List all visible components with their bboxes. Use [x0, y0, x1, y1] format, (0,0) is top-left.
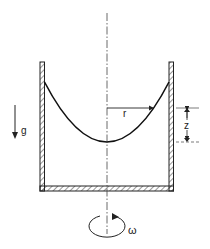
rotating-container-diagram: r z g ω: [0, 0, 210, 249]
gravity-arrowhead-icon: [12, 132, 18, 139]
angular-velocity-label: ω: [128, 224, 137, 236]
right-wall: [169, 62, 174, 191]
height-label: z: [184, 120, 189, 131]
left-wall: [40, 62, 45, 191]
gravity-label: g: [21, 125, 27, 136]
radius-label: r: [123, 108, 127, 119]
